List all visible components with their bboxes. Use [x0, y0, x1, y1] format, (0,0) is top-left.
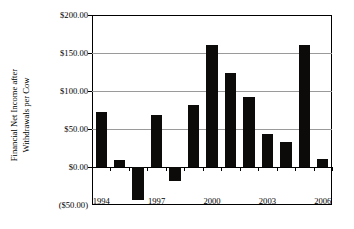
- x-tick-mark: [147, 167, 148, 171]
- x-tick-mark: [258, 167, 259, 171]
- x-tick-label: 2006: [314, 196, 331, 206]
- y-tick-mark: [88, 167, 92, 168]
- bar-chart-figure: Financial Net Income after Withdrawals p…: [0, 0, 354, 229]
- bar-1997: [151, 115, 162, 167]
- x-axis-tick-labels: 19941997200020032006: [92, 196, 332, 218]
- y-axis-title-line-2: Withdrawals per Cow: [20, 68, 32, 160]
- y-tick-label: $150.00: [34, 49, 88, 58]
- x-tick-mark: [221, 167, 222, 171]
- bar-1996: [132, 167, 143, 200]
- y-tick-label: $200.00: [34, 11, 88, 20]
- x-tick-mark: [295, 167, 296, 171]
- bar-2000: [206, 45, 217, 167]
- x-tick-mark: [314, 167, 315, 171]
- x-tick-mark: [332, 167, 333, 171]
- y-axis-tick-labels: $200.00$150.00$100.00$50.00$0.00($50.00): [34, 0, 88, 229]
- x-tick-mark: [129, 167, 130, 171]
- bar-2006: [317, 159, 328, 167]
- x-tick-mark: [240, 167, 241, 171]
- x-tick-mark: [184, 167, 185, 171]
- x-tick-mark: [166, 167, 167, 171]
- x-tick-mark: [277, 167, 278, 171]
- bar-1999: [188, 105, 199, 167]
- y-tick-label: ($50.00): [34, 201, 88, 210]
- bar-2003: [262, 134, 273, 167]
- y-tick-label: $50.00: [34, 125, 88, 134]
- y-tick-mark: [88, 129, 92, 130]
- x-tick-label: 2000: [203, 196, 220, 206]
- bar-1994: [96, 112, 107, 167]
- bar-2004: [280, 142, 291, 167]
- bar-2001: [225, 73, 236, 167]
- bar-2005: [299, 45, 310, 167]
- y-tick-mark: [88, 53, 92, 54]
- x-tick-label: 1997: [148, 196, 165, 206]
- y-tick-mark: [88, 15, 92, 16]
- x-tick-mark: [203, 167, 204, 171]
- y-axis-title-line-1: Financial Net Income after: [9, 68, 21, 160]
- bar-1995: [114, 160, 125, 167]
- x-tick-label: 1994: [93, 196, 110, 206]
- x-tick-mark: [110, 167, 111, 171]
- x-tick-label: 2003: [259, 196, 276, 206]
- bar-2002: [243, 97, 254, 167]
- y-tick-label: $100.00: [34, 87, 88, 96]
- plot-area: [92, 15, 332, 205]
- y-tick-mark: [88, 91, 92, 92]
- bar-1998: [169, 167, 180, 181]
- y-tick-label: $0.00: [34, 163, 88, 172]
